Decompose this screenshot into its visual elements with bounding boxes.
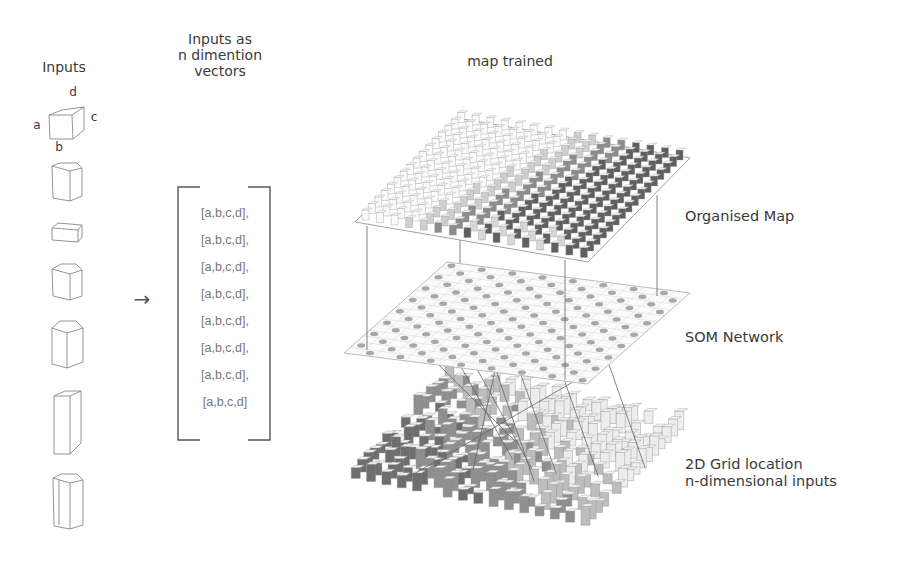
som-network-layer	[344, 262, 690, 384]
grid-location-label: 2D Grid location n-dimensional inputs	[685, 456, 837, 490]
som-network-label: SOM Network	[685, 329, 783, 346]
organised-map-label: Organised Map	[685, 208, 794, 225]
input-grid-layer	[351, 361, 687, 525]
organised-map-layer	[355, 111, 690, 262]
grid-location-label-line-1: 2D Grid location	[685, 456, 837, 473]
grid-location-label-line-2: n-dimensional inputs	[685, 473, 837, 490]
